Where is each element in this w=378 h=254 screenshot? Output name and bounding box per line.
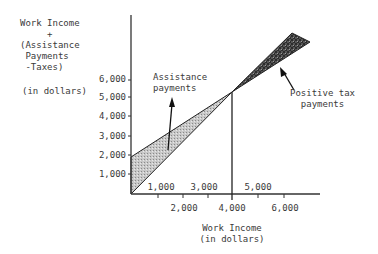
chart-plot bbox=[0, 0, 378, 254]
x-tick-1000: 1,000 bbox=[143, 182, 179, 192]
x-tick-2000: 2,000 bbox=[166, 203, 202, 213]
tax-region bbox=[232, 33, 310, 92]
x-tick-6000: 6,000 bbox=[267, 203, 303, 213]
x-tick-5000: 5,000 bbox=[240, 182, 276, 192]
assistance-region bbox=[131, 92, 232, 194]
x-tick-4000: 4,000 bbox=[214, 203, 250, 213]
assistance-annotation: Assistance payments bbox=[153, 72, 207, 94]
tax-annotation: Positive tax payments bbox=[290, 88, 355, 110]
x-axis-title: Work Income (in dollars) bbox=[196, 223, 268, 245]
x-tick-3000: 3,000 bbox=[186, 182, 222, 192]
